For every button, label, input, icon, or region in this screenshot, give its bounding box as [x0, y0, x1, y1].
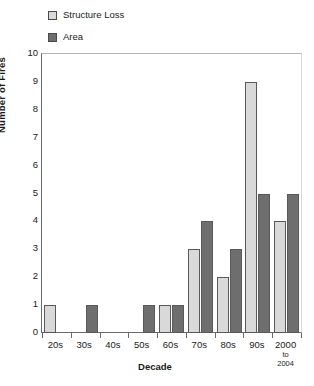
- x-tickmark: [100, 333, 101, 338]
- bar-structure-loss: [274, 221, 286, 333]
- bars-layer: [42, 54, 301, 333]
- y-tick-label: 7: [2, 132, 38, 142]
- y-tick-label: 3: [2, 243, 38, 253]
- x-tickmark: [301, 333, 302, 338]
- bar-group: [71, 54, 100, 333]
- bar-structure-loss: [217, 277, 229, 333]
- y-tick-label: 9: [2, 76, 38, 86]
- bar-group: [215, 54, 244, 333]
- x-tickmark: [157, 333, 158, 338]
- legend-swatch-structure-loss: [48, 11, 57, 20]
- x-tick-label: 80s: [214, 339, 243, 350]
- y-tick-label: 1: [2, 299, 38, 309]
- bar-group: [100, 54, 129, 333]
- y-tick-label: 8: [2, 104, 38, 114]
- bar-structure-loss: [245, 82, 257, 333]
- x-tickmark: [42, 333, 43, 338]
- bar-group: [157, 54, 186, 333]
- y-tick-label: 10: [2, 48, 38, 58]
- bar-structure-loss: [159, 305, 171, 333]
- bar-area: [201, 221, 213, 333]
- bar-area: [287, 194, 299, 334]
- x-tick-label-main: 30s: [76, 339, 91, 350]
- x-tick-label: 30s: [70, 339, 99, 350]
- y-tick-label: 0: [2, 327, 38, 337]
- y-tick-label: 5: [2, 188, 38, 198]
- bar-area: [143, 305, 155, 333]
- x-tickmark: [215, 333, 216, 338]
- bar-area: [230, 249, 242, 333]
- legend-item-area: Area: [48, 28, 248, 46]
- x-tick-label-main: 70s: [192, 339, 207, 350]
- x-tick-label-main: 40s: [105, 339, 120, 350]
- bar-group: [243, 54, 272, 333]
- x-tick-label-main: 20s: [48, 339, 63, 350]
- x-tick-label-main: 80s: [220, 339, 235, 350]
- bar-group: [272, 54, 301, 333]
- legend-swatch-area: [48, 33, 57, 42]
- x-tick-label-sub: 2004: [271, 359, 300, 368]
- x-tick-label: 20s: [41, 339, 70, 350]
- x-tick-label-main: 60s: [163, 339, 178, 350]
- x-tickmark: [128, 333, 129, 338]
- x-tick-label: 90s: [242, 339, 271, 350]
- x-tick-label-main: 50s: [134, 339, 149, 350]
- legend-label-structure-loss: Structure Loss: [63, 10, 124, 20]
- bar-area: [172, 305, 184, 333]
- x-tick-label: 40s: [99, 339, 128, 350]
- bar-area: [258, 194, 270, 334]
- y-tick-label: 6: [2, 160, 38, 170]
- chart-legend: Structure Loss Area: [48, 6, 248, 50]
- x-tick-label: 2000to2004: [271, 339, 300, 368]
- bar-structure-loss: [44, 305, 56, 333]
- x-tickmark: [272, 333, 273, 338]
- y-axis-ticks: 109876543210: [0, 53, 38, 333]
- bar-group: [186, 54, 215, 333]
- x-tick-label: 70s: [185, 339, 214, 350]
- bar-structure-loss: [188, 249, 200, 333]
- bar-area: [86, 305, 98, 333]
- x-axis-title: Decade: [41, 361, 269, 372]
- x-tick-label-main: 2000: [275, 339, 296, 350]
- bar-chart: Structure Loss Area Number of Fires 1098…: [0, 0, 314, 386]
- y-tick-label: 4: [2, 215, 38, 225]
- x-tick-label: 60s: [156, 339, 185, 350]
- y-tick-label: 2: [2, 271, 38, 281]
- x-tick-label-main: 90s: [249, 339, 264, 350]
- x-tick-label: 50s: [127, 339, 156, 350]
- x-tick-label-sub: to: [271, 350, 300, 359]
- x-tickmark: [243, 333, 244, 338]
- bar-group: [128, 54, 157, 333]
- legend-item-structure-loss: Structure Loss: [48, 6, 248, 24]
- legend-label-area: Area: [63, 32, 83, 42]
- bar-group: [42, 54, 71, 333]
- x-tickmark: [186, 333, 187, 338]
- x-tickmark: [71, 333, 72, 338]
